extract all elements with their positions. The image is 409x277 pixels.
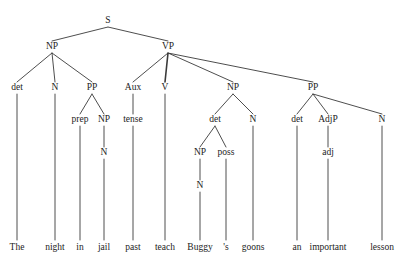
tree-node-tense: tense: [122, 115, 144, 125]
tree-edge-NP1-to-PP1: [52, 53, 92, 82]
sentence-word-w-buggy: Buggy: [187, 243, 212, 253]
tree-branch-lines: [0, 0, 409, 277]
tree-node-N3: N: [378, 115, 387, 125]
tree-node-V: V: [161, 83, 170, 93]
tree-node-det3: det: [290, 115, 304, 125]
tree-node-prep: prep: [71, 115, 90, 125]
tree-node-NP4: NP: [193, 148, 207, 158]
tree-node-det2: det: [208, 115, 222, 125]
tree-edge-NP2-to-det2: [215, 94, 233, 114]
sentence-word-w-teach: teach: [155, 243, 175, 253]
tree-edge-VP-to-PP2: [168, 53, 313, 82]
tree-edge-VP-to-NP2: [168, 53, 233, 82]
sentence-word-w-lesson: lesson: [370, 243, 394, 253]
tree-node-adj: adj: [321, 148, 335, 158]
sentence-word-w-jail: jail: [98, 243, 110, 253]
tree-node-VP: VP: [161, 42, 175, 52]
tree-node-NP1: NP: [45, 42, 59, 52]
sentence-word-w-past: past: [125, 243, 140, 253]
tree-edge-NP1-to-N1: [52, 53, 55, 82]
tree-edge-PP2-to-N3: [313, 94, 382, 114]
tree-node-N5: N: [196, 181, 205, 191]
tree-node-NP2: NP: [226, 83, 240, 93]
sentence-word-w-an: an: [293, 243, 302, 253]
tree-node-S: S: [104, 16, 111, 26]
sentence-word-w-poss: 's: [223, 243, 228, 253]
syntax-tree-diagram: SNPVPdetNPPAuxVNPPPprepNPtensedetNdetAdj…: [0, 0, 409, 277]
tree-edge-det2-to-poss: [215, 126, 226, 147]
tree-node-PP1: PP: [86, 83, 99, 93]
tree-node-NP3: NP: [97, 115, 111, 125]
sentence-word-w-night: night: [45, 243, 65, 253]
tree-edge-det2-to-NP4: [200, 126, 215, 147]
sentence-word-w-the: The: [10, 243, 25, 253]
tree-edge-PP1-to-prep: [80, 94, 92, 114]
tree-edge-VP-to-V: [165, 53, 168, 82]
tree-node-Aux: Aux: [124, 83, 142, 93]
tree-node-N4: N: [100, 148, 109, 158]
tree-edge-S-to-NP1: [52, 27, 108, 41]
sentence-word-w-important: important: [310, 243, 347, 253]
tree-node-AdjP: AdjP: [317, 115, 339, 125]
tree-edge-PP2-to-AdjP: [313, 94, 328, 114]
tree-edge-VP-to-Aux: [133, 53, 168, 82]
sentence-word-w-goons: goons: [242, 243, 265, 253]
tree-edge-PP1-to-NP3: [92, 94, 104, 114]
tree-node-N2: N: [249, 115, 258, 125]
tree-node-PP2: PP: [307, 83, 320, 93]
tree-edge-NP1-to-det1: [17, 53, 52, 82]
tree-edge-NP2-to-N2: [233, 94, 253, 114]
tree-node-det1: det: [10, 83, 24, 93]
tree-node-N1: N: [51, 83, 60, 93]
tree-node-poss: poss: [217, 148, 236, 158]
sentence-word-w-in: in: [76, 243, 83, 253]
tree-edge-PP2-to-det3: [297, 94, 313, 114]
tree-edge-S-to-VP: [108, 27, 168, 41]
